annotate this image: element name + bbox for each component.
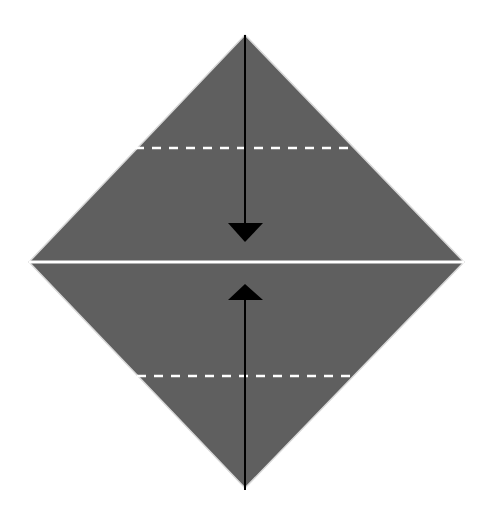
origami-diagram: [0, 0, 495, 522]
